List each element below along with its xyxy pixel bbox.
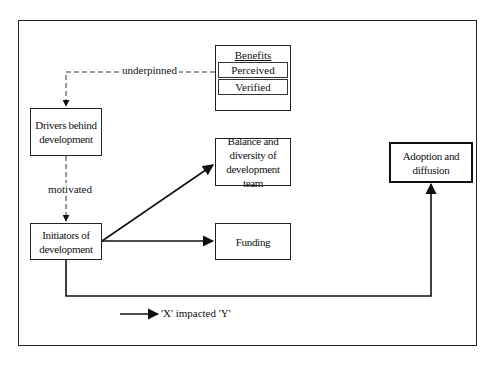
edge-label-underpinned: underpinned [120,64,179,76]
node-drivers-label: Drivers behind development [31,118,101,146]
node-drivers: Drivers behind development [30,108,102,156]
underpinned-arrow [66,72,215,106]
node-funding-label: Funding [236,235,271,249]
node-balance-label: Balance and diversity of development tea… [216,134,290,190]
node-adoption: Adoption and diffusion [389,142,473,183]
node-initiators-label: Initiators of development [31,228,101,256]
node-adoption-label: Adoption and diffusion [391,149,471,177]
legend-text: 'X' impacted 'Y' [161,307,231,319]
node-funding: Funding [215,223,291,260]
node-benefits: Benefits Perceived Verified [215,45,291,111]
edge-label-motivated: motivated [46,183,94,195]
node-initiators: Initiators of development [30,223,102,260]
benefits-title: Benefits [216,48,290,62]
benefits-item-perceived: Perceived [218,62,288,78]
benefits-item-verified: Verified [218,79,288,95]
node-balance: Balance and diversity of development tea… [215,138,291,186]
initiators-to-balance-arrow [102,165,213,241]
